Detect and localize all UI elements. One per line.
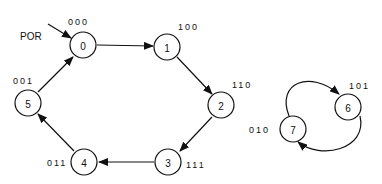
state-diagram: POR 0 000 1 100 2 110 3 111 4 011 5 001 … <box>0 0 382 184</box>
svg-text:6: 6 <box>345 103 351 114</box>
state-node-5: 5 001 <box>13 76 41 116</box>
svg-text:5: 5 <box>25 99 31 110</box>
state-code-7: 010 <box>249 125 270 135</box>
state-node-0: 0 000 <box>68 17 96 58</box>
edge-4-5 <box>38 114 74 151</box>
state-node-1: 1 100 <box>154 22 199 60</box>
edge-6-7 <box>298 116 361 151</box>
state-code-1: 100 <box>178 22 199 32</box>
svg-text:1: 1 <box>164 43 170 54</box>
state-node-6: 6 101 <box>335 81 370 120</box>
state-code-4: 011 <box>47 158 67 168</box>
edge-1-2 <box>177 57 212 94</box>
state-code-2: 110 <box>232 80 252 90</box>
svg-text:4: 4 <box>81 158 87 169</box>
svg-text:2: 2 <box>218 101 224 112</box>
state-node-7: 7 010 <box>249 116 306 142</box>
state-node-3: 3 111 <box>155 149 206 175</box>
edge-0-1 <box>97 45 153 46</box>
state-code-5: 001 <box>13 76 34 86</box>
state-node-2: 2 110 <box>208 80 252 118</box>
edge-2-3 <box>180 117 212 151</box>
state-code-0: 000 <box>68 17 89 27</box>
state-code-6: 101 <box>349 81 370 91</box>
svg-text:0: 0 <box>80 41 86 52</box>
edge-5-0 <box>38 57 73 92</box>
por-label: POR <box>20 31 42 42</box>
state-code-3: 111 <box>186 160 206 170</box>
state-node-4: 4 011 <box>47 149 97 175</box>
svg-text:3: 3 <box>165 158 171 169</box>
edge-7-6 <box>286 81 339 116</box>
svg-text:7: 7 <box>290 125 296 136</box>
